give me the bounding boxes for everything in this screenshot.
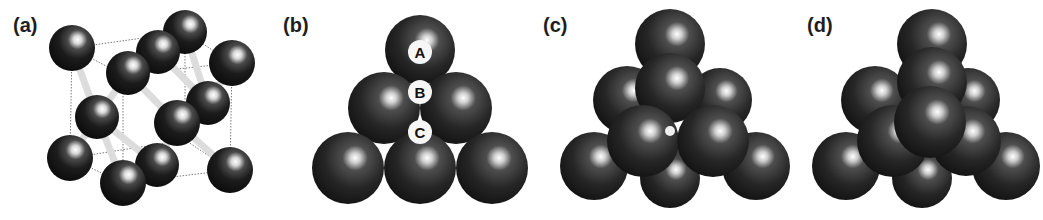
atom: [154, 100, 200, 146]
site-marker-b: B: [408, 80, 432, 104]
atom: [75, 95, 119, 139]
sphere: [677, 105, 749, 177]
panel-c-two-layers: [560, 9, 790, 208]
atom: [209, 40, 255, 86]
atom: [106, 51, 150, 95]
atom: [100, 160, 146, 206]
site-label-c: C: [415, 124, 426, 141]
panel-label-d: (d): [807, 14, 833, 37]
site-marker-a: A: [408, 40, 432, 64]
void-hole: [665, 126, 675, 136]
atoms: [47, 10, 255, 206]
site-label-b: B: [415, 84, 426, 101]
sphere: [607, 105, 679, 177]
sphere: [312, 132, 384, 204]
atom: [47, 135, 93, 181]
atom: [207, 147, 253, 193]
panel-a-diamond-lattice: [47, 10, 255, 206]
site-label-a: A: [415, 44, 426, 61]
figure-canvas: A B C: [0, 0, 1043, 220]
atom: [49, 25, 95, 71]
panel-label-c: (c): [543, 14, 567, 37]
panel-label-b: (b): [283, 14, 309, 37]
sphere: [456, 132, 528, 204]
panel-b-close-packed-layer: A B C: [312, 15, 528, 204]
site-marker-c: C: [408, 120, 432, 144]
sphere: [894, 86, 966, 158]
panel-d-three-layers: [812, 9, 1040, 208]
panel-label-a: (a): [13, 14, 37, 37]
